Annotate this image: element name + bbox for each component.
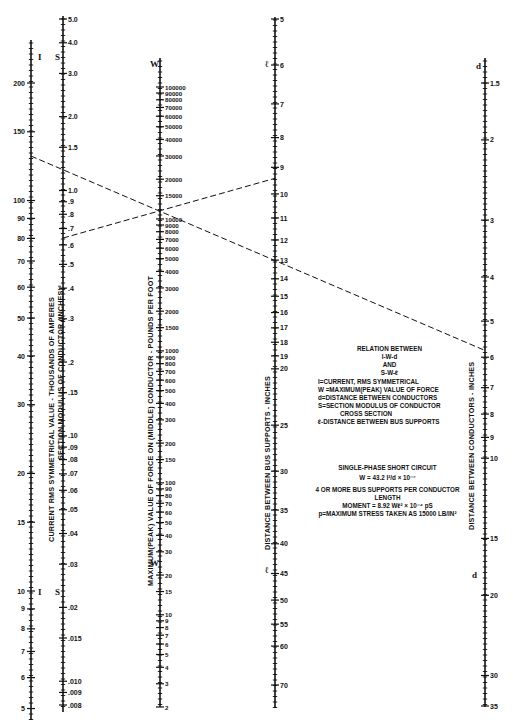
tick-label-i: 150 bbox=[13, 128, 25, 135]
definition-distance-supports: ℓ-DISTANCE BETWEEN BUS SUPPORTS bbox=[318, 418, 468, 426]
tick-label-w: 60000 bbox=[165, 113, 183, 120]
tick-label-d: 2 bbox=[490, 136, 494, 143]
tick-label-i: 5 bbox=[21, 705, 25, 712]
tick-label-w: 40 bbox=[165, 532, 172, 539]
tick-label-s: 2.0 bbox=[68, 113, 78, 120]
tick-label-d: 4 bbox=[490, 274, 494, 281]
tick-label-w: 5 bbox=[165, 651, 169, 658]
tick-label-l: 10 bbox=[280, 191, 288, 198]
tick-label-w: 70 bbox=[165, 500, 172, 507]
tick-label-s: 4.0 bbox=[68, 39, 78, 46]
tick-label-w: 7000 bbox=[165, 236, 179, 243]
definition-current: I=CURRENT, RMS SYMMETRICAL bbox=[318, 378, 468, 386]
tick-label-w: 7 bbox=[165, 632, 169, 639]
relation-line-3: AND bbox=[322, 361, 457, 369]
tick-label-s: .3 bbox=[68, 315, 74, 322]
tick-label-i: 10 bbox=[17, 588, 25, 595]
tick-label-l: 60 bbox=[280, 643, 288, 650]
tick-label-l: 7 bbox=[280, 101, 284, 108]
tick-label-d: 35 bbox=[490, 703, 498, 710]
tick-label-w: 300 bbox=[165, 416, 176, 423]
tick-label-w: 5000 bbox=[165, 255, 179, 262]
tick-label-d: 15 bbox=[490, 535, 498, 542]
definition-section-modulus: S=SECTION MODULUS OF CONDUCTOR bbox=[318, 402, 468, 410]
tick-label-w: 80000 bbox=[165, 96, 183, 103]
tick-label-l: 25 bbox=[280, 422, 288, 429]
example-line-1 bbox=[31, 156, 485, 350]
tick-label-s: .04 bbox=[68, 530, 78, 537]
scale-letter-s: S bbox=[55, 587, 60, 597]
tick-label-i: 50 bbox=[17, 315, 25, 322]
tick-label-s: 5.0 bbox=[68, 16, 78, 23]
tick-label-d: 1.5 bbox=[490, 80, 500, 87]
tick-label-d: 30 bbox=[490, 672, 498, 679]
tick-label-w: 60 bbox=[165, 509, 172, 516]
tick-label-w: 4000 bbox=[165, 268, 179, 275]
s-scale-title: SECTION MODULUS OF CONDUCTOR (INCHES)³ bbox=[56, 285, 65, 460]
relation-line-1: RELATION BETWEEN bbox=[322, 345, 457, 353]
tick-label-l: 70 bbox=[280, 682, 288, 689]
tick-label-l: 50 bbox=[280, 597, 288, 604]
tick-label-w: 50000 bbox=[165, 123, 183, 130]
tick-label-l: 19 bbox=[280, 353, 288, 360]
scale-letter-s: S bbox=[55, 52, 60, 62]
tick-label-w: 800 bbox=[165, 360, 176, 367]
tick-label-i: 90 bbox=[17, 215, 25, 222]
tick-label-w: 500 bbox=[165, 387, 176, 394]
scale-letter-i: I bbox=[38, 52, 42, 62]
tick-label-d: 6 bbox=[490, 354, 494, 361]
tick-label-s: 1.0 bbox=[68, 187, 78, 194]
tick-label-d: 10 bbox=[490, 455, 498, 462]
tick-label-d: 5 bbox=[490, 318, 494, 325]
scale-letter-l: ℓ bbox=[265, 565, 269, 575]
tick-label-w: 40000 bbox=[165, 136, 183, 143]
tick-label-w: 15 bbox=[165, 588, 172, 595]
tick-label-i: 100 bbox=[13, 197, 25, 204]
tick-label-s: .06 bbox=[68, 487, 78, 494]
l-scale-title: DISTANCE BETWEEN BUS SUPPORTS - INCHES bbox=[263, 376, 272, 550]
tick-label-s: .15 bbox=[68, 389, 78, 396]
tick-label-l: 20 bbox=[280, 365, 288, 372]
tick-label-d: 9 bbox=[490, 434, 494, 441]
relation-line-4: S-W-ℓ bbox=[322, 369, 457, 377]
definition-force: W =MAXIMUM(PEAK) VALUE OF FORCE bbox=[318, 386, 468, 394]
i-scale-title: CURRENT RMS SYMMETRICAL VALUE - THOUSAND… bbox=[47, 297, 56, 542]
tick-label-s: .07 bbox=[68, 470, 78, 477]
tick-label-l: 45 bbox=[280, 570, 288, 577]
tick-label-s: .015 bbox=[68, 635, 82, 642]
tick-label-i: 15 bbox=[17, 519, 25, 526]
tick-label-s: .010 bbox=[68, 678, 82, 685]
tick-label-s: .10 bbox=[68, 432, 78, 439]
formula-force: W = 43.2 I²/d × 10⁻⁷ bbox=[305, 474, 470, 482]
formula-note: 4 OR MORE BUS SUPPORTS PER CONDUCTOR LEN… bbox=[305, 486, 470, 502]
relation-block: RELATION BETWEEN I-W-d AND S-W-ℓ bbox=[322, 345, 457, 377]
tick-label-l: 12 bbox=[280, 237, 288, 244]
tick-label-w: 4 bbox=[165, 664, 169, 671]
formula-stress: p=MAXIMUM STRESS TAKEN AS 15000 LB/IN² bbox=[305, 510, 470, 518]
tick-label-w: 150 bbox=[165, 456, 176, 463]
tick-label-w: 2 bbox=[165, 704, 169, 711]
tick-label-w: 1500 bbox=[165, 324, 179, 331]
tick-label-w: 400 bbox=[165, 400, 176, 407]
tick-label-w: 30 bbox=[165, 548, 172, 555]
scale-l: 5678910111213141516171819202530354045505… bbox=[265, 16, 288, 708]
tick-label-w: 200 bbox=[165, 440, 176, 447]
tick-label-s: 3.0 bbox=[68, 70, 78, 77]
tick-label-w: 700 bbox=[165, 368, 176, 375]
tick-label-l: 11 bbox=[280, 215, 288, 222]
scale-w: 1000009000080000700006000050000400003000… bbox=[150, 58, 186, 711]
tick-label-i: 60 bbox=[17, 284, 25, 291]
tick-label-w: 6 bbox=[165, 641, 169, 648]
tick-label-w: 20 bbox=[165, 572, 172, 579]
tick-label-l: 55 bbox=[280, 621, 288, 628]
tick-label-s: .5 bbox=[68, 261, 74, 268]
tick-label-s: 1.5 bbox=[68, 144, 78, 151]
tick-label-w: 600 bbox=[165, 377, 176, 384]
tick-label-w: 6000 bbox=[165, 245, 179, 252]
tick-label-l: 18 bbox=[280, 339, 288, 346]
tick-label-w: 8 bbox=[165, 624, 169, 631]
tick-label-i: 200 bbox=[13, 80, 25, 87]
tick-label-s: .9 bbox=[68, 198, 74, 205]
tick-label-l: 6 bbox=[280, 62, 284, 69]
tick-label-i: 20 bbox=[17, 470, 25, 477]
